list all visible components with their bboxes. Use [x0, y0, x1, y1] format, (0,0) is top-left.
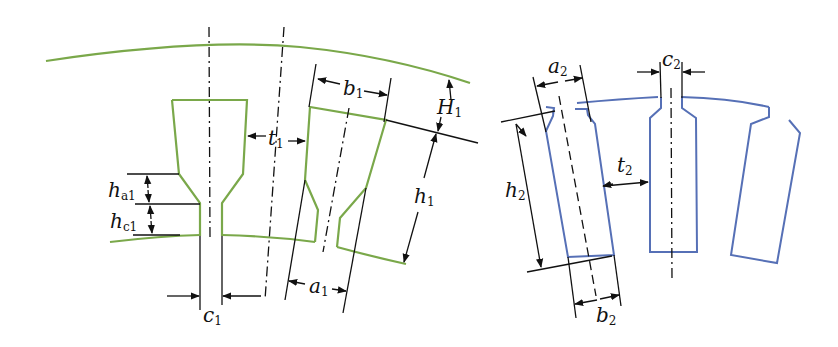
label-h2: h2: [505, 178, 526, 203]
slot-dimension-figure: b1 t1 H1 h1 ha1 hc1 c1: [0, 0, 838, 347]
stator-diagram: b1 t1 H1 h1 ha1 hc1 c1: [46, 27, 478, 328]
rotor-centerline-left: [559, 96, 596, 296]
b2-extension-right: [614, 255, 621, 306]
b1-arrow-left: [318, 79, 340, 84]
hc1-arrow-up: [150, 206, 151, 219]
b1-arrow-right: [364, 91, 387, 95]
stator-centerline-tooth: [265, 27, 284, 300]
stator-bore-arc-right: [337, 247, 406, 264]
label-a1: a1: [309, 274, 329, 299]
label-t2: t2: [617, 153, 633, 178]
stator-outer-arc: [46, 44, 470, 83]
a1-arrow-right: [332, 289, 346, 291]
label-h1: h1: [414, 184, 435, 209]
a1-arrow-left: [289, 281, 305, 284]
h1-arrow-up: [424, 134, 436, 178]
label-hc1: hc1: [110, 209, 137, 234]
a2-extension-right: [580, 65, 591, 122]
rotor-slot-left: [546, 107, 614, 257]
H1-arrow-down: [438, 117, 441, 131]
a2-arrow-left: [537, 82, 558, 86]
b2-extension-left: [568, 257, 576, 318]
label-H1: H1: [436, 95, 462, 120]
stator-slot-right-opening: [305, 180, 318, 242]
stator-slot-left-side: [172, 100, 200, 236]
label-b1: b1: [343, 76, 363, 101]
hc1-arrow-down: [151, 221, 152, 233]
ha1-arrow-up: [147, 176, 148, 188]
slot-top-line: [386, 120, 478, 143]
rotor-outer-arc: [577, 97, 769, 107]
b2-arrow-right: [600, 295, 619, 299]
ha1-arrow-down: [148, 190, 149, 202]
label-a2: a2: [548, 54, 568, 79]
h1-arrow-down: [404, 212, 418, 262]
rotor-slot-center: [650, 97, 697, 252]
h2-top-extension: [501, 111, 555, 122]
stator-bore-arc: [110, 235, 200, 242]
label-c2: c2: [662, 47, 681, 72]
stator-centerline-right: [323, 108, 349, 252]
rotor-slot-right: [731, 107, 800, 263]
label-b2: b2: [596, 303, 616, 328]
c2-extension-left: [660, 62, 661, 98]
stator-centerline-left: [209, 27, 210, 239]
b2-arrow-left: [575, 300, 597, 304]
label-ha1: ha1: [108, 178, 136, 203]
label-t1: t1: [268, 126, 284, 151]
label-c1: c1: [203, 303, 222, 328]
b1-extension-right: [384, 78, 391, 122]
rotor-diagram: a2 c2 t2 h2 b2: [501, 47, 800, 328]
b1-extension-left: [309, 64, 316, 107]
